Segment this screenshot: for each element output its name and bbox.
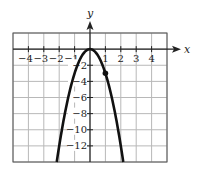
tick-labels: −4−3−2−11234−2−4−6−8−10−12 — [18, 46, 155, 151]
data-point — [103, 71, 109, 77]
x-tick-label: −4 — [18, 53, 33, 64]
axes — [13, 21, 181, 162]
x-tick-label: 3 — [133, 53, 139, 64]
x-tick-label: 1 — [102, 53, 108, 64]
y-tick-label: −8 — [72, 108, 87, 119]
x-tick-label: 4 — [148, 53, 154, 64]
data-points — [103, 71, 109, 77]
x-tick-label: −3 — [33, 53, 48, 64]
x-tick-label: 2 — [118, 53, 124, 64]
x-axis-label: x — [184, 43, 191, 56]
y-tick-label: −10 — [66, 124, 87, 135]
parabola-chart: −4−3−2−11234−2−4−6−8−10−12 x y — [0, 0, 197, 170]
y-tick-label: −6 — [72, 92, 87, 103]
x-tick-label: −2 — [49, 53, 64, 64]
y-axis-label: y — [86, 7, 94, 20]
y-tick-label: −12 — [66, 140, 87, 151]
